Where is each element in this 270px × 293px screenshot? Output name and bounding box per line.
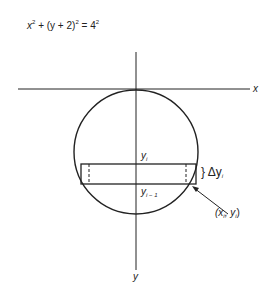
strip-rectangle <box>81 164 196 184</box>
y-axis-label: y <box>133 272 138 282</box>
delta-sub: i <box>222 173 223 179</box>
eq-exp1: 2 <box>32 19 35 25</box>
equation: x2 + (y + 2)2 = 42 <box>27 19 99 31</box>
delta-text: } Δy <box>201 165 222 179</box>
diagram-canvas <box>0 0 270 293</box>
eq-plus: + <box>38 20 44 31</box>
eq-exp2: 2 <box>75 19 78 25</box>
eq-equals: = <box>82 20 88 31</box>
label-point: (xi, yi) <box>215 208 240 219</box>
point-mid: , y <box>225 207 236 218</box>
label-delta-yi: } Δyi <box>201 166 223 179</box>
x-axis-label: x <box>253 84 258 94</box>
eq-exp3: 2 <box>96 19 99 25</box>
yi-sub: i <box>146 156 147 162</box>
label-yi-minus-1: yi − 1 <box>141 187 158 198</box>
yi1-sub: i − 1 <box>146 192 158 198</box>
label-yi: yi <box>141 151 147 162</box>
point-close: ) <box>237 207 240 218</box>
eq-paren: (y + 2) <box>47 20 76 31</box>
